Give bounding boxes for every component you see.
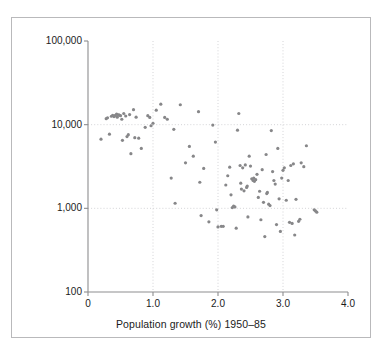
x-tick-label: 4.0 bbox=[328, 298, 368, 309]
x-tick-label: 2.0 bbox=[198, 298, 238, 309]
y-tick-label: 10,000 bbox=[26, 119, 82, 130]
y-tick-label: 100 bbox=[26, 286, 82, 297]
y-tick-label: 100,000 bbox=[26, 35, 82, 46]
gridlines bbox=[88, 41, 348, 292]
scatter-plot bbox=[0, 0, 382, 352]
axis-ticks bbox=[84, 41, 348, 296]
x-tick-label: 3.0 bbox=[263, 298, 303, 309]
x-tick-label: 1.0 bbox=[133, 298, 173, 309]
chart-figure: 1001,00010,000100,000 01.02.03.04.0 Popu… bbox=[0, 0, 382, 352]
y-tick-label: 1,000 bbox=[26, 202, 82, 213]
x-tick-label: 0 bbox=[68, 298, 108, 309]
data-points bbox=[99, 103, 318, 239]
x-axis-title: Population growth (%) 1950–85 bbox=[0, 318, 382, 330]
